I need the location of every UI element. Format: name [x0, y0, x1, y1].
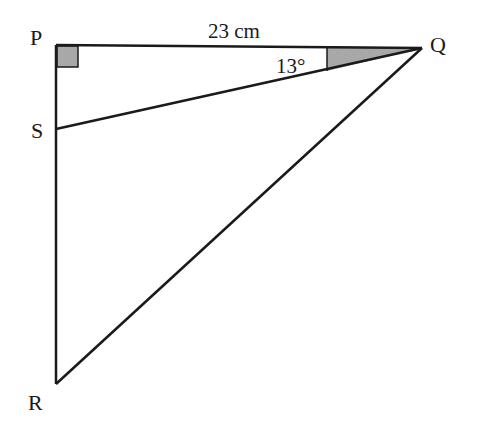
side-pq [56, 45, 422, 48]
vertex-label-s: S [31, 118, 43, 143]
vertex-label-q: Q [430, 32, 446, 57]
right-angle-marker [57, 46, 78, 67]
angle-label: 13° [276, 54, 305, 78]
side-length-label: 23 cm [208, 19, 260, 43]
side-rq [56, 48, 422, 384]
vertex-label-p: P [30, 25, 42, 50]
segment-sq [56, 48, 422, 129]
triangle-diagram: P Q S R 23 cm 13° [0, 0, 477, 438]
vertex-label-r: R [28, 390, 43, 415]
